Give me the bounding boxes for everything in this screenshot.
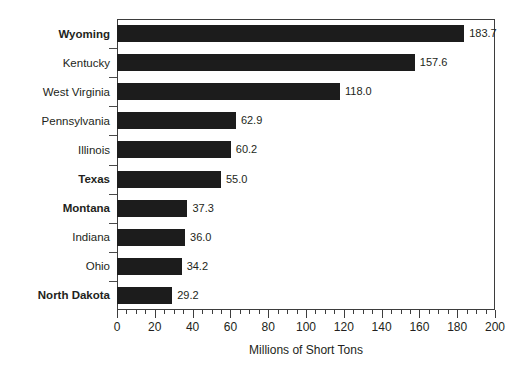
x-axis-minor-tick — [334, 310, 335, 314]
x-axis-tick-label: 100 — [296, 320, 316, 334]
x-axis-minor-tick — [476, 310, 477, 314]
category-label: Montana — [0, 202, 110, 214]
category-label: Indiana — [0, 231, 110, 243]
x-axis-minor-tick — [287, 310, 288, 314]
x-axis-minor-tick — [467, 310, 468, 314]
bar — [117, 25, 464, 42]
y-axis-tick — [109, 135, 117, 136]
x-axis-minor-tick — [126, 310, 127, 314]
y-axis-tick — [109, 281, 117, 282]
category-label: North Dakota — [0, 289, 110, 301]
x-axis-minor-tick — [438, 310, 439, 314]
category-label: Ohio — [0, 260, 110, 272]
bar — [117, 171, 221, 188]
bar-value-label: 118.0 — [345, 86, 372, 97]
x-axis-minor-tick — [249, 310, 250, 314]
bar — [117, 83, 340, 100]
x-axis-minor-tick — [363, 310, 364, 314]
x-axis-tick-labels: 020406080100120140160180200 — [0, 320, 530, 336]
bar-value-label: 157.6 — [420, 57, 448, 68]
bar-value-label: 55.0 — [226, 174, 247, 185]
x-axis-minor-tick — [315, 310, 316, 314]
x-axis-major-tick — [457, 310, 458, 318]
x-axis-minor-tick — [372, 310, 373, 314]
x-axis-minor-tick — [221, 310, 222, 314]
bar — [117, 54, 415, 71]
x-axis-tick-label: 160 — [409, 320, 429, 334]
category-label: Illinois — [0, 144, 110, 156]
x-axis-tick-label: 120 — [334, 320, 354, 334]
x-axis-ticks — [117, 310, 496, 320]
y-axis-tick — [109, 165, 117, 166]
x-axis-minor-tick — [278, 310, 279, 314]
bar-value-label: 60.2 — [236, 144, 257, 155]
x-axis-minor-tick — [297, 310, 298, 314]
x-axis-major-tick — [382, 310, 383, 318]
y-axis-tick — [109, 223, 117, 224]
x-axis-minor-tick — [183, 310, 184, 314]
x-axis-minor-tick — [174, 310, 175, 314]
x-axis-minor-tick — [353, 310, 354, 314]
bar-value-label: 37.3 — [192, 203, 213, 214]
bar-value-label: 36.0 — [190, 232, 211, 243]
x-axis-minor-tick — [202, 310, 203, 314]
x-axis-minor-tick — [429, 310, 430, 314]
category-label: Wyoming — [0, 28, 110, 40]
x-axis-major-tick — [306, 310, 307, 318]
x-axis-minor-tick — [486, 310, 487, 314]
y-axis-tick — [109, 77, 117, 78]
bar-value-label: 34.2 — [187, 261, 208, 272]
x-axis-major-tick — [230, 310, 231, 318]
category-label: Kentucky — [0, 57, 110, 69]
x-axis-minor-tick — [136, 310, 137, 314]
y-axis-tick — [109, 106, 117, 107]
bar — [117, 112, 236, 129]
x-axis-minor-tick — [448, 310, 449, 314]
category-label: Pennsylvania — [0, 115, 110, 127]
x-axis-minor-tick — [325, 310, 326, 314]
x-axis-major-tick — [117, 310, 118, 318]
category-label: Texas — [0, 173, 110, 185]
x-axis-minor-tick — [212, 310, 213, 314]
bar — [117, 229, 185, 246]
bars-layer: 183.7157.6118.062.960.255.037.336.034.22… — [117, 19, 495, 310]
x-axis-minor-tick — [145, 310, 146, 314]
x-axis-major-tick — [419, 310, 420, 318]
category-axis-labels: WyomingKentuckyWest VirginiaPennsylvania… — [0, 19, 110, 310]
x-axis-tick-label: 80 — [262, 320, 275, 334]
bar — [117, 141, 231, 158]
bar-value-label: 62.9 — [241, 115, 262, 126]
bar — [117, 258, 182, 275]
x-axis-major-tick — [495, 310, 496, 318]
x-axis-tick-label: 140 — [372, 320, 392, 334]
y-axis-tick — [109, 252, 117, 253]
x-axis-title: Millions of Short Tons — [117, 343, 495, 357]
y-axis-tick — [109, 48, 117, 49]
x-axis-minor-tick — [240, 310, 241, 314]
x-axis-tick-label: 0 — [114, 320, 121, 334]
x-axis-major-tick — [344, 310, 345, 318]
x-axis-tick-label: 180 — [447, 320, 467, 334]
x-axis-minor-tick — [164, 310, 165, 314]
x-axis-minor-tick — [401, 310, 402, 314]
x-axis-minor-tick — [410, 310, 411, 314]
x-axis-major-tick — [155, 310, 156, 318]
x-axis-tick-label: 60 — [224, 320, 237, 334]
category-label: West Virginia — [0, 86, 110, 98]
y-axis-tick — [109, 194, 117, 195]
x-axis-tick-label: 20 — [148, 320, 161, 334]
bar — [117, 200, 187, 217]
bar — [117, 287, 172, 304]
x-axis-minor-tick — [259, 310, 260, 314]
x-axis-tick-label: 200 — [485, 320, 505, 334]
x-axis-major-tick — [193, 310, 194, 318]
bar-value-label: 183.7 — [469, 28, 497, 39]
x-axis-minor-tick — [391, 310, 392, 314]
x-axis-major-tick — [268, 310, 269, 318]
bar-chart: WyomingKentuckyWest VirginiaPennsylvania… — [0, 0, 530, 375]
bar-value-label: 29.2 — [177, 290, 198, 301]
x-axis-tick-label: 40 — [186, 320, 199, 334]
